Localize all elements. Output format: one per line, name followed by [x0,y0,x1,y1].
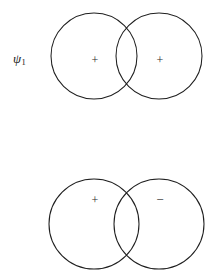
molecular-orbital-figure: ψ1 + + ψ2 + − [0,0,219,276]
orbital-sign-left-psi1: + [88,54,102,66]
orbital-row-psi2: ψ2 + − [0,138,219,276]
orbital-sign-right-psi1: + [153,54,167,66]
orbital-lobes-psi1 [0,0,219,138]
orbital-row-psi1: ψ1 + + [0,0,219,138]
orbital-sign-right-psi2: − [153,193,167,206]
orbital-lobes-psi2 [0,138,219,276]
orbital-sign-left-psi2: + [88,194,102,206]
